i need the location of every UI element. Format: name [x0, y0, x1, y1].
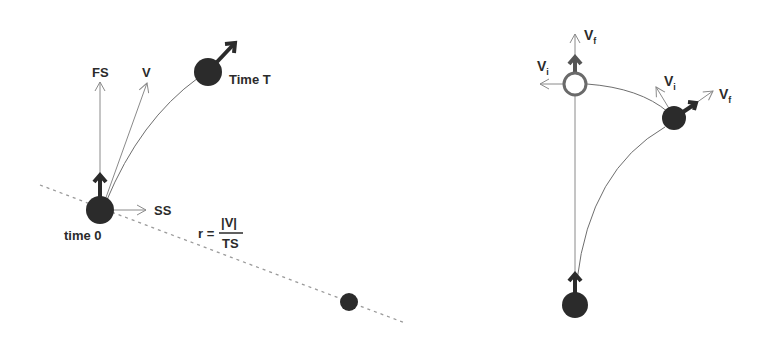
right-diagram: Vf Vi Vi Vf [537, 27, 732, 318]
top-vi-label: Vi [537, 58, 549, 77]
formula-lhs: r = [198, 226, 215, 241]
heading-arrow-bottom [569, 274, 581, 293]
arc-lower-curve [577, 127, 665, 280]
time0-label: time 0 [64, 228, 102, 243]
top-vf-label: Vf [584, 27, 597, 46]
v-label: V [142, 65, 151, 80]
ball-on-path [340, 293, 358, 311]
arc-top-curve [587, 84, 668, 112]
fs-label: FS [92, 65, 109, 80]
heading-arrow-mid [683, 102, 696, 112]
timeT-label: Time T [229, 72, 271, 87]
diagram-canvas: FS V SS time 0 Time T r = |V| TS [0, 0, 771, 337]
mid-vf-label: Vf [719, 86, 732, 105]
ball-bottom [562, 292, 588, 318]
ball-mid [662, 106, 686, 130]
left-diagram: FS V SS time 0 Time T r = |V| TS [40, 43, 405, 323]
mid-vi-label: Vi [664, 73, 676, 92]
radius-formula: r = |V| TS [198, 215, 243, 251]
ss-label: SS [154, 203, 172, 218]
v-vector-arrow [104, 83, 147, 203]
heading-arrow-time0 [94, 175, 106, 198]
formula-denominator: TS [222, 236, 239, 251]
trajectory-curve [106, 78, 198, 202]
heading-arrow-timeT [216, 43, 235, 63]
hollow-ball-top [564, 73, 586, 95]
heading-arrow-top [569, 57, 581, 72]
mid-vi-arrow [656, 87, 670, 110]
ball-time0 [86, 196, 114, 224]
formula-numerator: |V| [221, 215, 237, 230]
